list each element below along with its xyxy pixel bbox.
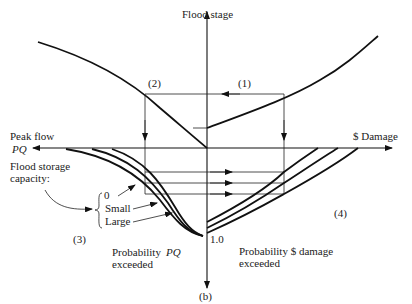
prob-pq-label-line1: Probability — [112, 246, 161, 258]
storage-option-large: Large — [105, 215, 131, 227]
storage-title-line1: Flood storage — [10, 160, 70, 172]
pointer-0 — [118, 185, 135, 196]
storage-option-0: 0 — [104, 189, 110, 201]
prob-pq-label-line2: exceeded — [112, 258, 153, 270]
origin-value-label: 1.0 — [210, 233, 224, 245]
quadrant-2-label: (2) — [148, 77, 161, 90]
damage-axis-label: $ Damage — [353, 130, 398, 142]
storage-brace — [95, 193, 102, 228]
figure-label: (b) — [199, 290, 212, 303]
storage-option-small: Small — [105, 202, 131, 214]
storage-callout-arrow — [45, 190, 92, 209]
pointer-large — [133, 213, 172, 222]
prob-damage-label-line1: Probability $ damage — [239, 245, 333, 257]
peak-flow-label: Peak flow — [10, 130, 54, 142]
quadrant-1-label: (1) — [238, 77, 251, 90]
stage-flow-curve — [38, 42, 207, 148]
stage-damage-curve — [207, 36, 378, 128]
flood-damage-diagram: Flood stage (2) (1) Peak flow PQ $ Damag… — [0, 0, 412, 304]
storage-title-line2: capacity: — [10, 172, 50, 184]
quadrant-4-label: (4) — [334, 207, 347, 220]
damage-frequency-line-small — [207, 148, 338, 228]
prob-pq-label-var: PQ — [165, 246, 181, 258]
prob-damage-label-line2: exceeded — [239, 257, 280, 269]
pointer-small — [133, 203, 157, 209]
damage-frequency-line-large — [207, 148, 358, 233]
pq-label: PQ — [11, 143, 27, 155]
flood-stage-label: Flood stage — [182, 8, 233, 20]
quadrant-3-label: (3) — [73, 233, 86, 246]
